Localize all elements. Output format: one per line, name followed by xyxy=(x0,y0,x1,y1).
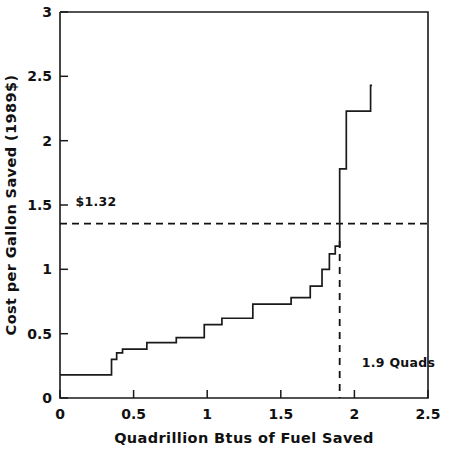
chart-figure: 0 0.5 1 1.5 2 2.5 3 0 0.5 1 1.5 2 2.5 Qu… xyxy=(0,0,450,457)
y-tick-label-0: 0 xyxy=(42,390,52,406)
y-tick-labels: 0 0.5 1 1.5 2 2.5 3 xyxy=(27,4,52,406)
x-axis-ticks xyxy=(60,390,428,398)
y-axis-title: Cost per Gallon Saved (1989$) xyxy=(3,75,19,336)
y-tick-label-3: 3 xyxy=(42,4,52,20)
x-tick-label-2: 2 xyxy=(350,406,360,422)
y-tick-label-2: 2 xyxy=(42,133,52,149)
price-annotation-label: $1.32 xyxy=(75,194,116,209)
y-tick-label-0p5: 0.5 xyxy=(27,326,52,342)
y-axis-ticks xyxy=(60,12,68,398)
x-tick-label-2p5: 2.5 xyxy=(416,406,441,422)
x-tick-label-0: 0 xyxy=(55,406,65,422)
y-tick-label-1p5: 1.5 xyxy=(27,197,52,213)
quantity-annotation-label: 1.9 Quads xyxy=(362,355,436,370)
x-tick-label-0p5: 0.5 xyxy=(121,406,146,422)
x-tick-labels: 0 0.5 1 1.5 2 2.5 xyxy=(55,406,440,422)
supply-step-curve xyxy=(60,85,372,375)
step-chart-svg: 0 0.5 1 1.5 2 2.5 3 0 0.5 1 1.5 2 2.5 Qu… xyxy=(0,0,450,457)
y-tick-label-2p5: 2.5 xyxy=(27,68,52,84)
x-tick-label-1: 1 xyxy=(202,406,212,422)
x-axis-title: Quadrillion Btus of Fuel Saved xyxy=(114,430,374,446)
x-tick-label-1p5: 1.5 xyxy=(268,406,293,422)
y-tick-label-1: 1 xyxy=(42,261,52,277)
